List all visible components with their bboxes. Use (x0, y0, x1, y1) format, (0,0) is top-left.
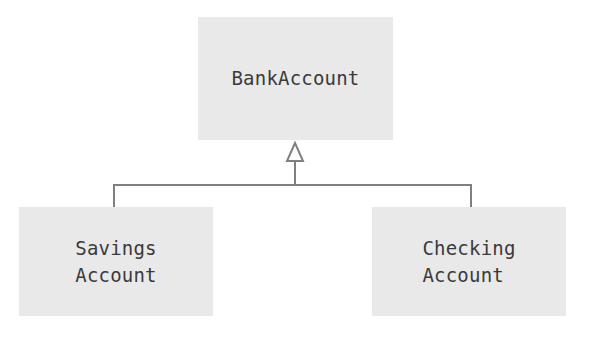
class-box-checkingaccount[interactable]: Checking Account (372, 207, 566, 316)
generalization-arrowhead-icon (287, 143, 303, 161)
class-name-bankaccount: BankAccount (231, 65, 359, 91)
uml-class-diagram: BankAccount Savings Account Checking Acc… (0, 0, 590, 352)
class-box-savingsaccount[interactable]: Savings Account (19, 207, 213, 316)
class-box-bankaccount[interactable]: BankAccount (198, 17, 393, 140)
class-name-savingsaccount: Savings Account (75, 235, 156, 287)
class-name-checkingaccount: Checking Account (422, 235, 515, 287)
